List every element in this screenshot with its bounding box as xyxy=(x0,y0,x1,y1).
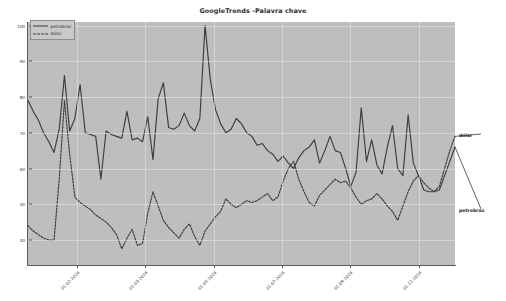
y-axis: 405060708090100 xyxy=(4,22,25,265)
y-axis-tick-mark xyxy=(29,97,32,98)
gridline-horizontal xyxy=(28,240,455,241)
gridline-horizontal xyxy=(28,133,455,134)
legend-item-dolar: dólar xyxy=(33,31,71,37)
series-line-petrobras xyxy=(28,26,455,192)
series-annotation-petrobras: petrobras xyxy=(459,208,484,213)
gridline-horizontal xyxy=(28,97,455,98)
chart-title: GoogleTrends -Palavra chave xyxy=(0,7,506,15)
y-axis-tick-mark xyxy=(29,239,32,240)
gridline-horizontal xyxy=(28,204,455,205)
y-axis-tick-mark xyxy=(29,61,32,62)
legend-line-dashed-icon xyxy=(33,31,48,36)
leader-petrobras xyxy=(455,147,481,209)
chart-figure: GoogleTrends -Palavra chave 405060708090… xyxy=(0,0,506,301)
gridline-vertical xyxy=(77,22,78,265)
gridline-vertical xyxy=(214,22,215,265)
plot-area xyxy=(28,22,455,265)
y-axis-tick-label: 90 xyxy=(9,59,25,64)
x-axis-tick-label: 01-02-2019 xyxy=(60,270,81,291)
x-axis-tick-label: 01-07-2019 xyxy=(265,270,286,291)
legend-line-solid-icon xyxy=(33,24,48,29)
x-axis-tick-label: 01-05-2019 xyxy=(197,270,218,291)
gridline-horizontal xyxy=(28,169,455,170)
series-annotation-dolar: dólar xyxy=(459,133,472,138)
gridline-vertical xyxy=(282,22,283,265)
x-axis-tick-label: 01-03-2019 xyxy=(128,270,149,291)
x-axis: 01-02-201901-03-201901-05-201901-07-2019… xyxy=(28,268,455,301)
legend-label: petrobras xyxy=(51,24,72,29)
series-line-dlar xyxy=(28,101,455,249)
gridline-vertical xyxy=(350,22,351,265)
y-axis-tick-mark xyxy=(29,204,32,205)
y-axis-tick-label: 80 xyxy=(9,95,25,100)
y-axis-tick-mark xyxy=(29,168,32,169)
gridline-vertical xyxy=(419,22,420,265)
y-axis-tick-mark xyxy=(29,132,32,133)
y-axis-line xyxy=(27,22,28,266)
legend-item-petrobras: petrobras xyxy=(33,23,71,29)
gridline-horizontal xyxy=(28,61,455,62)
y-axis-tick-label: 60 xyxy=(9,166,25,171)
y-axis-tick-label: 40 xyxy=(9,237,25,242)
y-axis-tick-label: 100 xyxy=(9,23,25,28)
chart-legend: petrobras dólar xyxy=(30,20,75,40)
y-axis-tick-label: 50 xyxy=(9,202,25,207)
series-lines xyxy=(28,22,455,265)
gridline-vertical xyxy=(145,22,146,265)
y-axis-tick-label: 70 xyxy=(9,130,25,135)
gridline-horizontal xyxy=(28,26,455,27)
x-axis-tick-label: 01-09-2019 xyxy=(333,270,354,291)
legend-label: dólar xyxy=(51,31,62,36)
x-axis-tick-label: 01-11-2019 xyxy=(402,270,423,291)
